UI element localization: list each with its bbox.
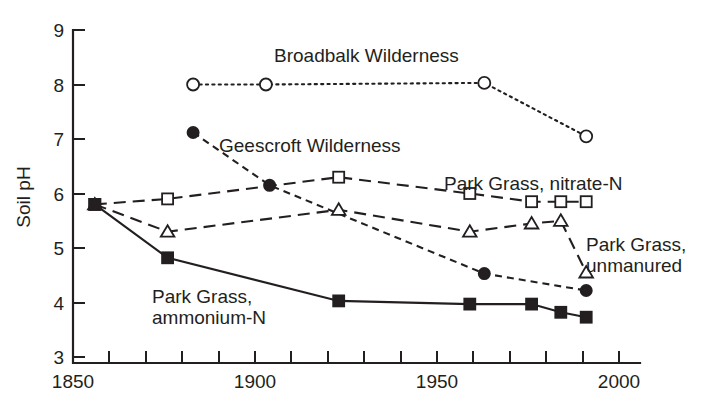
nitrate-marker [333,172,344,183]
broadbalk-marker [187,79,199,91]
nitrate-marker [526,196,537,207]
broadbalk-markers [187,77,592,142]
y-tick-label-8: 8 [53,75,64,96]
unmanured-marker [332,203,346,215]
geescroft-marker [188,127,199,138]
x-tick-label-1850: 1850 [52,371,94,392]
x-tick-labels: 1850 1900 1950 2000 [52,371,640,392]
ammonium-marker [526,299,537,310]
geescroft-line [193,133,586,291]
y-tick-label-3: 3 [53,347,64,368]
unmanured-markers [88,198,593,278]
y-tick-label-5: 5 [53,238,64,259]
geescroft-marker [479,268,490,279]
ammonium-marker [333,295,344,306]
label-park-grass-unmanured-line1: Park Grass, [586,234,686,255]
broadbalk-line [193,83,586,136]
ammonium-marker [555,307,566,318]
ammonium-marker [464,299,475,310]
x-tick-label-1900: 1900 [234,371,276,392]
nitrate-marker [555,196,566,207]
y-axis-title: Soil pH [13,166,34,227]
broadbalk-marker [260,79,272,91]
soil-ph-line-chart: 9 8 7 6 5 4 3 1850 1900 1950 2000 Soil p… [0,0,711,417]
x-axis-ticks [109,351,619,363]
label-park-grass-ammonium-n-line2: ammonium-N [152,307,266,328]
y-axis-ticks [73,30,85,357]
label-broadbalk-wilderness: Broadbalk Wilderness [274,45,459,66]
axes-group: 9 8 7 6 5 4 3 1850 1900 1950 2000 Soil p… [13,20,640,392]
label-geescroft-wilderness: Geescroft Wilderness [219,135,401,156]
broadbalk-marker [478,77,490,89]
y-tick-labels: 9 8 7 6 5 4 3 [53,20,64,368]
ammonium-marker [162,252,173,263]
y-tick-label-6: 6 [53,184,64,205]
y-tick-label-9: 9 [53,20,64,41]
label-park-grass-nitrate-n: Park Grass, nitrate-N [444,173,622,194]
nitrate-marker [581,196,592,207]
unmanured-marker [525,217,539,229]
y-tick-label-4: 4 [53,293,64,314]
nitrate-marker [162,193,173,204]
label-park-grass-unmanured-line2: unmanured [586,255,682,276]
broadbalk-marker [580,130,592,142]
ammonium-marker [89,199,100,210]
y-tick-label-7: 7 [53,129,64,150]
series-park-grass-unmanured [88,198,593,278]
chart-figure: 9 8 7 6 5 4 3 1850 1900 1950 2000 Soil p… [0,0,711,417]
ammonium-marker [581,312,592,323]
series-broadbalk-wilderness [187,77,592,142]
geescroft-marker [581,285,592,296]
x-tick-label-2000: 2000 [598,371,640,392]
x-tick-label-1950: 1950 [416,371,458,392]
label-park-grass-ammonium-n-line1: Park Grass, [152,286,252,307]
unmanured-marker [554,214,568,226]
